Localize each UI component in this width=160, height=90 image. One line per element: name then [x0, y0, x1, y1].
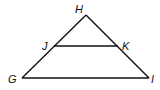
triangle-diagram: H J K G I	[0, 0, 160, 90]
label-h: H	[75, 3, 83, 15]
label-k: K	[122, 40, 130, 52]
label-j: J	[41, 40, 48, 52]
label-g: G	[8, 73, 17, 85]
label-i: I	[151, 73, 154, 85]
